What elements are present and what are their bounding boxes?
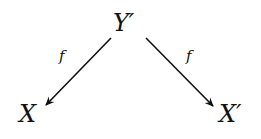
edge-label-left: f: [59, 49, 65, 64]
node-right: X′: [219, 102, 242, 126]
arrow-top-to-left: [46, 38, 111, 105]
arrow-top-to-right: [146, 38, 213, 106]
node-left: X: [19, 102, 36, 126]
edge-label-right: f: [186, 49, 192, 64]
node-top: Y′: [113, 11, 134, 35]
